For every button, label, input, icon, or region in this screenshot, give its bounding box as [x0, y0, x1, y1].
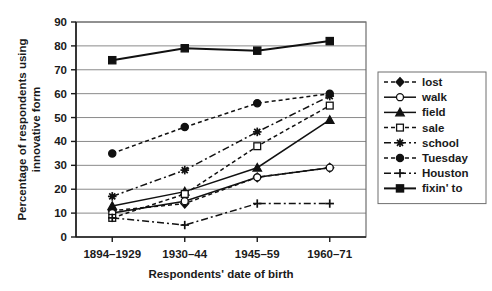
series-line: [112, 204, 330, 226]
legend-label: Tuesday: [422, 152, 468, 164]
series-line: [112, 120, 330, 206]
legend-label: Houston: [422, 167, 469, 179]
series-marker: [326, 102, 333, 109]
series-marker: [109, 150, 116, 157]
legend-label: fixin' to: [422, 182, 462, 194]
series-marker: [253, 164, 261, 172]
series-marker: [183, 169, 186, 172]
x-tick-label: 1945–59: [235, 248, 280, 260]
x-axis-title: Respondents' date of birth: [148, 268, 293, 280]
series-marker: [256, 130, 259, 133]
series-group: [108, 38, 334, 230]
legend-label: sale: [422, 122, 444, 134]
series-marker: [326, 199, 334, 207]
series-marker: [396, 154, 403, 161]
series-marker: [254, 143, 261, 150]
series-school: [108, 92, 334, 201]
line-chart: 01020304050607080901894–19291930–441945–…: [0, 0, 492, 291]
x-tick-label: 1894–1929: [83, 248, 141, 260]
y-tick-label: 60: [54, 88, 67, 100]
series-marker: [181, 45, 188, 52]
y-axis-title: Percentage of respondents usinginnovativ…: [16, 38, 42, 220]
series-marker: [326, 38, 333, 45]
legend-label: walk: [421, 91, 448, 103]
series-marker: [253, 128, 262, 137]
y-tick-label: 70: [54, 64, 67, 76]
series-marker: [396, 139, 405, 148]
y-axis-ticks: 0102030405060708090: [54, 16, 76, 243]
y-tick-label: 50: [54, 112, 67, 124]
y-tick-label: 30: [54, 159, 67, 171]
y-axis-title-line2: innovative form: [30, 87, 42, 173]
series-marker: [109, 57, 116, 64]
series-fixin-to: [109, 38, 334, 64]
series-walk: [109, 164, 334, 216]
series-line: [112, 106, 330, 218]
series-marker: [181, 221, 189, 229]
series-marker: [397, 124, 404, 131]
legend-item-fixin-to[interactable]: fixin' to: [384, 182, 462, 194]
series-marker: [326, 116, 334, 124]
series-marker: [111, 195, 114, 198]
legend-label: school: [422, 137, 459, 149]
y-tick-label: 90: [54, 16, 67, 28]
series-marker: [326, 90, 333, 97]
x-axis-ticks: 1894–19291930–441945–591960–71: [83, 237, 352, 260]
y-tick-label: 20: [54, 183, 67, 195]
series-marker: [181, 198, 188, 205]
y-axis-title-line1: Percentage of respondents using: [16, 38, 28, 220]
series-marker: [326, 164, 333, 171]
series-marker: [254, 100, 261, 107]
series-houston: [108, 199, 334, 229]
series-marker: [181, 191, 188, 198]
series-marker: [180, 166, 189, 175]
x-tick-label: 1930–44: [162, 248, 207, 260]
series-tuesday: [109, 90, 334, 157]
legend-label: lost: [422, 76, 443, 88]
series-marker: [397, 94, 404, 101]
series-marker: [254, 174, 261, 181]
series-field: [108, 116, 334, 210]
series-marker: [181, 124, 188, 131]
y-tick-label: 0: [61, 231, 67, 243]
y-tick-label: 10: [54, 207, 67, 219]
series-line: [112, 168, 330, 213]
series-line: [112, 96, 330, 196]
series-marker: [253, 199, 261, 207]
series-marker: [399, 141, 402, 144]
series-line: [112, 94, 330, 154]
legend-label: field: [422, 106, 446, 118]
legend: lostwalkfieldsaleschoolTuesdayHoustonfix…: [378, 72, 486, 204]
series-line: [112, 41, 330, 60]
y-tick-label: 80: [54, 40, 67, 52]
x-tick-label: 1960–71: [307, 248, 352, 260]
series-marker: [396, 185, 403, 192]
series-marker: [254, 47, 261, 54]
series-marker: [108, 192, 117, 201]
chart-figure: 01020304050607080901894–19291930–441945–…: [0, 0, 492, 291]
y-tick-label: 40: [54, 135, 67, 147]
